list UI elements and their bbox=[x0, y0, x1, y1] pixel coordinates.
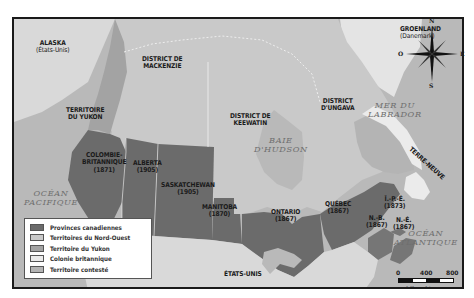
label-manitoba: MANITOBA(1870) bbox=[202, 204, 237, 219]
label-saskatchewan: SASKATCHEWAN(1905) bbox=[161, 182, 215, 197]
map-legend: Provinces canadiennes Territoires du Nor… bbox=[24, 218, 152, 279]
label-atlantic-ocean: OCÉANATLANTIQUE bbox=[394, 229, 458, 247]
scale-unit: kilomètres bbox=[406, 285, 442, 289]
label-quebec: QUÉBEC(1867) bbox=[325, 201, 351, 216]
scale-bar: 0 400 800 kilomètres bbox=[392, 269, 464, 289]
legend-label: Colonie britannique bbox=[50, 255, 112, 262]
legend-item: Colonie britannique bbox=[30, 254, 146, 265]
label-pacific-ocean: OCÉANPACIFIQUE bbox=[24, 189, 78, 207]
legend-swatch-provinces bbox=[30, 224, 44, 231]
region-newfoundland bbox=[404, 172, 430, 200]
compass-south: S bbox=[429, 82, 433, 89]
legend-item: Provinces canadiennes bbox=[30, 222, 146, 233]
label-keewatin: DISTRICT DEKEEWATIN bbox=[230, 113, 271, 128]
legend-swatch-british-colony bbox=[30, 255, 44, 262]
map-frame: ALASKA (États-Unis) GROENLAND (Danemark)… bbox=[12, 17, 464, 289]
label-new-brunswick: N.-B.(1867) bbox=[366, 215, 387, 230]
legend-label: Territoires du Nord-Ouest bbox=[50, 234, 130, 241]
scale-bar-graphic bbox=[398, 278, 454, 283]
legend-label: Territoire du Yukon bbox=[50, 245, 110, 252]
label-yukon: TERRITOIREDU YUKON bbox=[66, 107, 104, 122]
label-pei: Î.-P.-É.(1873) bbox=[384, 196, 405, 211]
legend-item: Territoire contesté bbox=[30, 264, 146, 275]
scale-tick: 400 bbox=[420, 269, 433, 276]
label-usa: ÉTATS-UNIS bbox=[224, 271, 262, 278]
compass-east: E bbox=[460, 50, 465, 57]
label-british-columbia: COLOMBIE-BRITANNIQUE(1871) bbox=[82, 152, 126, 174]
label-ontario: ONTARIO(1867) bbox=[271, 209, 300, 224]
label-labrador-sea: MER DULABRADOR bbox=[368, 101, 422, 119]
compass-north: N bbox=[429, 17, 434, 24]
label-ungava: DISTRICTD'UNGAVA bbox=[321, 98, 354, 113]
legend-label: Territoire contesté bbox=[50, 266, 108, 273]
legend-item: Territoires du Nord-Ouest bbox=[30, 233, 146, 244]
label-alberta: ALBERTA(1905) bbox=[133, 160, 162, 175]
legend-swatch-disputed bbox=[30, 266, 44, 273]
legend-swatch-yukon bbox=[30, 245, 44, 252]
legend-swatch-northwest-territories bbox=[30, 234, 44, 241]
label-hudson-bay: BAIED'HUDSON bbox=[254, 136, 308, 154]
legend-item: Territoire du Yukon bbox=[30, 243, 146, 254]
compass-west: O bbox=[398, 50, 403, 57]
compass-rose: N S O E bbox=[402, 22, 462, 86]
label-mackenzie: DISTRICT DEMACKENZIE bbox=[142, 56, 183, 71]
scale-tick: 800 bbox=[446, 269, 459, 276]
scale-tick: 0 bbox=[396, 269, 400, 276]
region-british-columbia bbox=[68, 130, 126, 227]
label-alaska: ALASKA (États-Unis) bbox=[36, 40, 70, 55]
compass-star-icon bbox=[402, 22, 462, 86]
legend-label: Provinces canadiennes bbox=[50, 224, 122, 231]
